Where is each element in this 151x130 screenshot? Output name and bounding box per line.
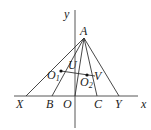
label-O2-main: O <box>80 75 89 89</box>
label-V: V <box>94 69 103 83</box>
label-O1-main: O <box>47 68 56 82</box>
y-axis-label: y <box>63 7 70 21</box>
label-B: B <box>46 97 54 111</box>
x-axis-label: x <box>140 97 147 111</box>
label-O: O <box>63 97 72 111</box>
point-O1 <box>59 69 62 72</box>
label-O1: O1 <box>47 68 60 83</box>
label-O2-sub: 2 <box>89 81 93 90</box>
label-A: A <box>79 24 88 38</box>
label-C: C <box>94 97 103 111</box>
label-U: U <box>68 58 78 72</box>
label-O2: O2 <box>80 75 93 90</box>
label-O1-sub: 1 <box>56 74 60 83</box>
label-X: X <box>15 97 24 111</box>
label-Y: Y <box>115 97 123 111</box>
geometry-diagram: y x A X B O C Y U V O1 O2 <box>0 0 151 130</box>
